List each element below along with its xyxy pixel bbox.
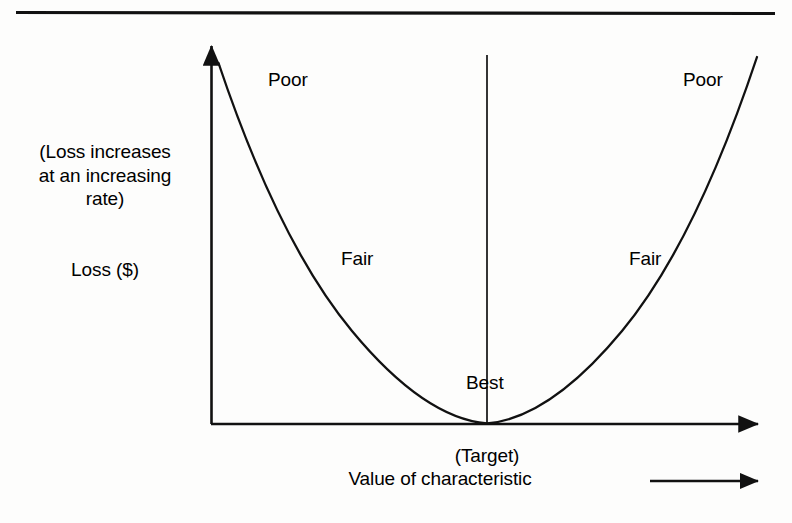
x-axis-title: Value of characteristic [348,467,531,490]
zone-label-best: Best [466,371,504,394]
top-rule [16,13,775,14]
y-axis-note: (Loss increases at an increasing rate) [5,140,205,211]
y-axis-title: Loss ($) [71,258,139,281]
zone-label-fair-left: Fair [341,247,373,270]
x-axis-target-label: (Target) [455,444,520,467]
zone-label-poor-right: Poor [683,68,723,91]
figure-canvas: (Loss increases at an increasing rate) L… [0,0,792,523]
zone-label-poor-left: Poor [268,68,308,91]
zone-label-fair-right: Fair [629,247,661,270]
